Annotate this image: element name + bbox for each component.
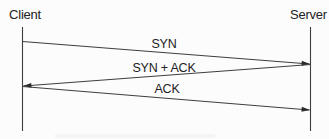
syn-message-label: SYN: [151, 37, 176, 51]
client-actor-label: Client: [9, 7, 42, 22]
sequence-diagram: Client Server SYN SYN + ACK ACK: [0, 0, 329, 139]
ack-arrowhead-icon: [301, 107, 310, 113]
scan-artifact: [55, 135, 215, 137]
server-actor-label: Server: [290, 7, 328, 22]
syn-ack-message-label: SYN + ACK: [132, 61, 196, 75]
ack-message-label: ACK: [154, 82, 180, 96]
syn-arrowhead-icon: [301, 61, 310, 67]
diagram-canvas: Client Server SYN SYN + ACK ACK: [0, 0, 329, 139]
